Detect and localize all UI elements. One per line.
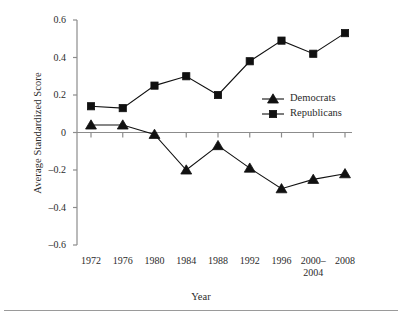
data-point-democrats-1972 [86, 120, 97, 129]
x-tick-label: 2008 [315, 255, 375, 267]
y-tick-label: –0.2 [26, 165, 66, 175]
data-point-republicans-1980 [151, 82, 158, 89]
chart-figure: Average Standardized Score Year 0.60.40.… [0, 0, 402, 318]
y-tick-label: 0 [26, 128, 66, 138]
data-point-republicans-2008 [341, 30, 348, 37]
y-tick-label: 0.6 [26, 15, 66, 25]
data-point-republicans-1992 [246, 58, 253, 65]
y-tick-label: –0.6 [26, 240, 66, 250]
data-point-republicans-1976 [119, 105, 126, 112]
legend-marker-democrats [268, 94, 279, 103]
legend-marker-republicans [269, 110, 276, 117]
data-point-republicans-1996 [278, 37, 285, 44]
data-point-republicans-2000–2004 [310, 50, 317, 57]
data-point-republicans-1988 [214, 91, 221, 98]
legend-label-democrats: Democrats [290, 92, 335, 103]
y-tick-label: 0.4 [26, 53, 66, 63]
data-point-republicans-1984 [183, 73, 190, 80]
x-tick-label-line: 2004 [283, 267, 343, 279]
data-point-democrats-2008 [340, 169, 351, 178]
x-tick-label-line: 2008 [315, 255, 375, 267]
bottom-divider [4, 310, 398, 311]
x-axis-title: Year [0, 291, 402, 302]
data-point-republicans-1972 [87, 103, 94, 110]
data-point-democrats-1992 [244, 163, 255, 172]
legend-label-republicans: Republicans [290, 107, 342, 118]
legend-markers [262, 94, 284, 118]
data-point-democrats-1988 [213, 140, 224, 149]
y-tick-label: 0.2 [26, 90, 66, 100]
data-point-democrats-1976 [117, 120, 128, 129]
y-tick-label: –0.4 [26, 203, 66, 213]
